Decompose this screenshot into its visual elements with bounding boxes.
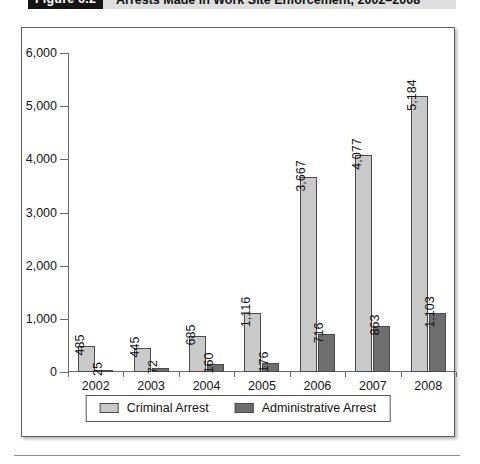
x-axis-tick: [345, 372, 346, 377]
y-axis-tick: [60, 266, 68, 267]
figure-caption: Arrests Made in Work Site Enforcement, 2…: [103, 0, 456, 9]
bar-criminal[interactable]: 5,184: [411, 96, 428, 372]
y-axis-tick: [60, 372, 68, 373]
bar-group: 6851602004: [179, 53, 234, 372]
x-axis-tick: [123, 372, 124, 377]
bar-value-label: 72: [146, 360, 160, 374]
bar-group: 5,1841,1032008: [401, 53, 456, 372]
y-axis-tick-label: 3,000: [26, 206, 57, 220]
y-axis-tick: [60, 159, 68, 160]
bar-group: 4,0778632007: [345, 53, 400, 372]
y-axis-tick-label: 6,000: [26, 46, 57, 60]
x-axis-category-label: 2003: [137, 379, 165, 393]
y-axis-tick-label: 5,000: [26, 99, 57, 113]
y-axis-tick-label: 4,000: [26, 152, 57, 166]
y-axis-tick: [60, 53, 68, 54]
bar-value-label: 863: [368, 315, 382, 336]
legend-entry-administrative: Administrative Arrest: [235, 401, 377, 415]
bar-value-label: 1,116: [239, 296, 253, 326]
bar-value-label: 1,103: [423, 297, 437, 328]
x-axis-category-label: 2008: [414, 379, 442, 393]
bar-value-label: 3,667: [294, 160, 308, 191]
legend-swatch-criminal-icon: [100, 403, 119, 413]
bar-value-label: 25: [91, 362, 105, 376]
figure-number-label: Figure 6.2: [28, 0, 103, 9]
chart-legend: Criminal Arrest Administrative Arrest: [86, 395, 391, 422]
bar-administrative[interactable]: 716: [318, 334, 335, 372]
y-axis-tick-label: 1,000: [26, 312, 57, 326]
footer-divider: [14, 455, 460, 456]
y-axis-tick-label: 2,000: [26, 259, 57, 273]
bar-value-label: 485: [73, 335, 87, 356]
bar-group: 1,1161762005: [234, 53, 289, 372]
x-axis-tick: [401, 372, 402, 377]
x-axis-tick: [68, 372, 69, 377]
x-axis-tick: [179, 372, 180, 377]
x-axis-category-label: 2006: [304, 379, 332, 393]
x-axis-category-label: 2005: [248, 379, 276, 393]
chart-frame: 01,0002,0003,0004,0005,0006,000 48525200…: [21, 27, 455, 437]
y-axis-tick-label: 0: [50, 365, 57, 379]
x-axis-category-label: 2002: [82, 379, 110, 393]
bar-administrative[interactable]: 72: [152, 368, 169, 372]
bar-value-label: 4,077: [350, 139, 364, 170]
bar-value-label: 716: [312, 323, 326, 344]
bar-group: 3,6677162006: [290, 53, 345, 372]
y-axis-tick: [60, 319, 68, 320]
x-axis-tick: [456, 372, 457, 377]
bar-group: 445722003: [123, 53, 178, 372]
figure-header: Figure 6.2 Arrests Made in Work Site Enf…: [28, 0, 456, 9]
bar-criminal[interactable]: 4,077: [355, 155, 372, 372]
bar-value-label: 5,184: [405, 80, 419, 111]
bar-value-label: 445: [128, 337, 142, 358]
bar-administrative[interactable]: 160: [207, 364, 224, 373]
legend-label-criminal: Criminal Arrest: [127, 401, 209, 415]
x-axis-category-label: 2007: [359, 379, 387, 393]
bar-group: 485252002: [68, 53, 123, 372]
bar-administrative[interactable]: 863: [373, 326, 390, 372]
x-axis-tick: [234, 372, 235, 377]
bar-value-label: 160: [202, 352, 216, 373]
bar-administrative[interactable]: 25: [96, 370, 113, 372]
bar-value-label: 685: [184, 324, 198, 345]
y-axis-tick: [60, 213, 68, 214]
x-axis-category-label: 2004: [193, 379, 221, 393]
legend-entry-criminal: Criminal Arrest: [100, 401, 209, 415]
legend-swatch-administrative-icon: [235, 403, 254, 413]
bar-administrative[interactable]: 1,103: [429, 313, 446, 372]
bar-administrative[interactable]: 176: [262, 363, 279, 372]
legend-label-administrative: Administrative Arrest: [262, 401, 377, 415]
bar-value-label: 176: [257, 351, 271, 372]
y-axis-tick: [60, 106, 68, 107]
x-axis-tick: [290, 372, 291, 377]
plot-area: 01,0002,0003,0004,0005,0006,000 48525200…: [68, 53, 456, 372]
